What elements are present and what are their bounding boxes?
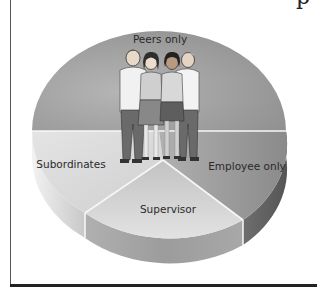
pie-svg: Peers only Subordinates Supervisor Emplo… bbox=[0, 0, 318, 288]
label-peers-only: Peers only bbox=[133, 33, 187, 45]
label-subordinates: Subordinates bbox=[36, 158, 105, 170]
label-employee-only: Employee only bbox=[208, 160, 286, 172]
label-supervisor: Supervisor bbox=[140, 203, 197, 215]
feedback-diagram: p bbox=[0, 0, 318, 288]
header-text-fragment: p bbox=[296, 0, 310, 8]
